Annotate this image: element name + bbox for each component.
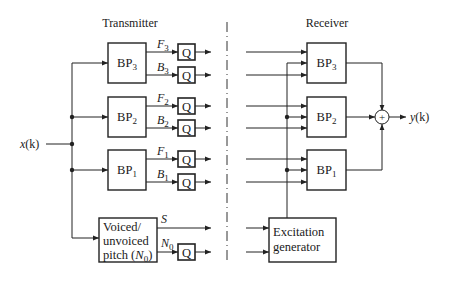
tx-bp2-block: BP2 [108, 97, 146, 137]
junction-dot [285, 168, 289, 172]
output-label: y(k) [409, 110, 429, 124]
svg-text:Excitation: Excitation [273, 225, 325, 239]
transmitter-heading: Transmitter [102, 16, 158, 30]
quantizer-b1: Q [178, 174, 195, 190]
bp1-to-sum [346, 124, 382, 170]
svg-text:Q: Q [182, 122, 191, 136]
svg-text:Q: Q [182, 69, 191, 83]
quantizer-n0: Q [178, 244, 195, 260]
n0-label: N0 [160, 236, 174, 252]
input-label: x(k) [19, 137, 39, 151]
bp3-to-sum [346, 63, 382, 111]
svg-text:Q: Q [182, 153, 191, 167]
junction-dot [285, 115, 289, 119]
quantizer-f1: Q [178, 151, 195, 167]
s-label: S [161, 212, 167, 226]
b1-label: B1 [157, 167, 169, 183]
pitch-detector-block: Voiced/ unvoiced pitch (N0) [99, 218, 157, 264]
quantizer-b3: Q [178, 67, 195, 83]
quantizer-f3: Q [178, 44, 195, 60]
svg-text:Q: Q [182, 100, 191, 114]
svg-text:generator: generator [273, 240, 321, 254]
tx-bp1-block: BP1 [108, 150, 146, 190]
f1-label: F1 [156, 144, 169, 160]
svg-text:+: + [379, 111, 385, 123]
rx-bp2-block: BP2 [307, 97, 346, 137]
svg-text:unvoiced: unvoiced [103, 234, 150, 248]
quantizer-f2: Q [178, 98, 195, 114]
svg-text:Q: Q [182, 46, 191, 60]
f3-label: F3 [156, 37, 169, 53]
rx-bp3-block: BP3 [307, 43, 346, 83]
b2-label: B2 [157, 113, 169, 129]
svg-text:Voiced/: Voiced/ [103, 220, 141, 234]
excitation-generator-block: Excitation generator [269, 218, 336, 262]
quantizer-b2: Q [178, 120, 195, 136]
junction-dot [70, 142, 74, 146]
f2-label: F2 [156, 91, 169, 107]
b3-label: B3 [157, 60, 169, 76]
summing-junction: + [375, 110, 389, 124]
rx-bp1-block: BP1 [307, 150, 346, 190]
vocoder-block-diagram: Transmitter Receiver x(k) BP3 F3 B3 BP2 … [0, 0, 453, 281]
svg-text:Q: Q [182, 246, 191, 260]
svg-text:Q: Q [182, 176, 191, 190]
receiver-heading: Receiver [306, 16, 349, 30]
tx-bp3-block: BP3 [108, 43, 146, 83]
